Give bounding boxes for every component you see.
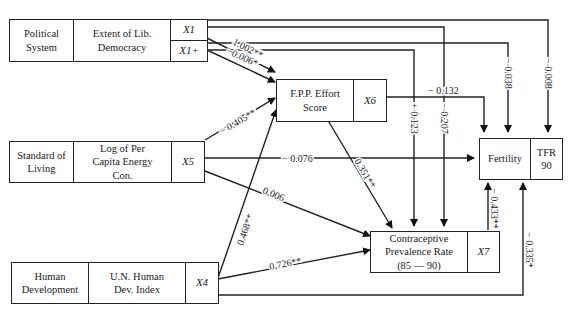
human-development-box: Human Development <box>11 262 89 304</box>
fpp-effort-box: F.P.P. Effort Score <box>276 79 354 122</box>
x4-box: X4 <box>185 262 219 304</box>
contraceptive-prevalence-box: Contraceptive Prevalence Rate (85 — 90) <box>370 231 468 273</box>
coef-x1plus-cpr: + 0.123 <box>409 103 420 134</box>
human-dev-index-box: U.N. Human Dev. Index <box>88 262 186 304</box>
x6-label: X6 <box>364 94 376 108</box>
path-x1plus-cpr <box>207 50 414 226</box>
x7-label: X7 <box>477 245 489 259</box>
path-x6-fertility <box>386 97 484 132</box>
coef-x1plus-fertility: − 0.038 <box>503 58 514 89</box>
standard-of-living-label: Standard of Living <box>17 149 67 175</box>
energy-con-label: Log of Per Capita Energy Con. <box>87 142 159 181</box>
fpp-effort-label: F.P.P. Effort Score <box>285 87 345 113</box>
x1-label: X1 <box>183 23 195 37</box>
lib-democracy-label: Extent of Lib. Democracy <box>82 27 162 53</box>
x7-box: X7 <box>467 231 500 273</box>
tfr90-label: TFR 90 <box>535 146 559 172</box>
human-development-label: Human Development <box>15 270 85 296</box>
political-system-label: Political System <box>18 27 66 53</box>
coef-x7-fertility: − 0.433** <box>489 188 500 229</box>
x1plus-box: X1+ <box>170 40 208 62</box>
coef-x5-cpr: 0.006 <box>261 185 286 204</box>
path-x5-cpr <box>205 171 370 236</box>
contraceptive-prevalence-label: Contraceptive Prevalence Rate (85 — 90) <box>377 232 461 271</box>
coef-x6-cpr: 0.351** <box>352 157 378 191</box>
coef-x1-cpr: − 0.207 <box>439 103 450 134</box>
fertility-box: Fertility <box>479 138 531 180</box>
standard-of-living-box: Standard of Living <box>9 141 74 183</box>
coef-x4-cpr: 0.726** <box>268 255 302 272</box>
x4-label: X4 <box>196 276 208 290</box>
coef-x1-fertility: − 0.008 <box>543 58 554 89</box>
x5-box: X5 <box>171 141 205 183</box>
coef-x5-fertility: − 0.076 <box>282 153 313 164</box>
x5-label: X5 <box>182 155 194 169</box>
coef-x4-fertility: − 0.335* <box>524 232 535 268</box>
coef-x4-fpp: 0.468** <box>234 212 255 246</box>
political-system-box: Political System <box>9 19 74 62</box>
coef-x6-fertility: − 0.132 <box>428 85 459 96</box>
x1-box: X1 <box>170 19 208 41</box>
lib-democracy-box: Extent of Lib. Democracy <box>73 19 171 62</box>
x1plus-label: X1+ <box>179 44 199 58</box>
fertility-label: Fertility <box>488 152 522 165</box>
energy-con-box: Log of Per Capita Energy Con. <box>73 141 172 183</box>
tfr90-box: TFR 90 <box>530 138 563 180</box>
human-dev-index-label: U.N. Human Dev. Index <box>107 270 167 296</box>
x6-box: X6 <box>353 79 387 122</box>
coef-x5-fpp: − 0.405** <box>217 106 258 136</box>
